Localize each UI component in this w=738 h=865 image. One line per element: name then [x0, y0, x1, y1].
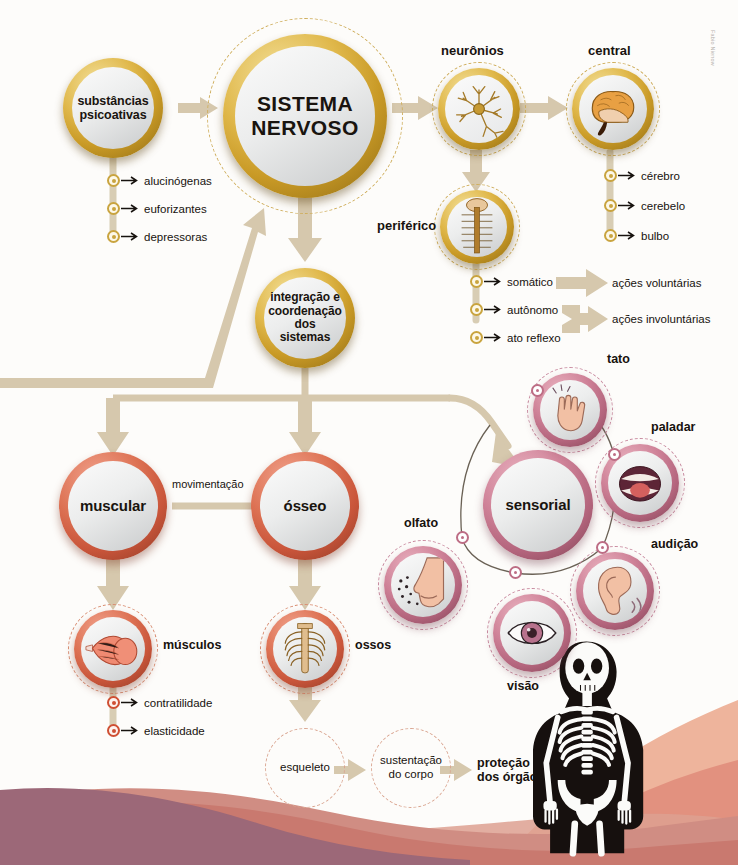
bullet-alucinogenas[interactable]: alucinógenas [107, 174, 212, 187]
node-tato-icon[interactable] [533, 373, 607, 447]
bullet-somatico[interactable]: somático [470, 275, 553, 288]
bullet-label: depressoras [144, 231, 207, 243]
bullet-dot [107, 202, 120, 215]
bullet-dot [604, 169, 617, 182]
node-olfato-icon[interactable] [384, 546, 462, 624]
label-protecao-dos-orgaos: proteção dos órgãos [477, 756, 544, 784]
node-label: esqueleto [280, 761, 330, 775]
bullet-elasticidade[interactable]: elasticidade [107, 724, 205, 737]
bullet-label: contratilidade [144, 697, 212, 709]
node-label: sensorial [502, 497, 575, 514]
bullet-label: alucinógenas [144, 175, 212, 187]
sensorial-node-olfato[interactable] [456, 531, 469, 544]
bullet-bulbo[interactable]: bulbo [604, 229, 669, 242]
bullet-cerebro[interactable]: cérebro [604, 169, 680, 182]
bullet-dot [604, 199, 617, 212]
label-musculos: músculos [163, 638, 221, 652]
arrow-icon [618, 200, 638, 211]
bullet-label: cerebelo [641, 200, 685, 212]
label-paladar: paladar [651, 420, 695, 434]
ear-icon [583, 559, 647, 623]
node-sustentacao-do-corpo[interactable]: sustentação do corpo [371, 728, 451, 808]
mouth-tongue-icon [608, 451, 672, 515]
node-label: sustentação do corpo [380, 754, 442, 781]
label-central: central [588, 44, 631, 59]
bullet-dot [470, 275, 483, 288]
eye-icon [500, 601, 564, 665]
bullet-dot [604, 229, 617, 242]
hand-touch-icon [540, 380, 600, 440]
arrow-icon [121, 697, 141, 708]
bullet-dot [107, 724, 120, 737]
arrow-icon [121, 203, 141, 214]
label-acoes-involuntarias: ações involuntárias [612, 313, 710, 327]
label-visao: visão [507, 679, 539, 693]
label-neuronios: neurônios [441, 44, 504, 59]
arrow-icon [121, 175, 141, 186]
node-sistema-nervoso[interactable]: SISTEMA NERVOSO [223, 34, 387, 198]
bullet-dot [107, 230, 120, 243]
arrow-icon [618, 230, 638, 241]
infographic-canvas: .c { fill:#d6c8ad; } .st { stroke:#d6c8a… [0, 0, 738, 865]
node-sensorial[interactable]: sensorial [483, 450, 593, 560]
bullet-dot [470, 331, 483, 344]
node-label: substâncias psicoativas [72, 94, 154, 122]
arrow-icon [484, 276, 504, 287]
bullet-cerebelo[interactable]: cerebelo [604, 199, 685, 212]
arrow-icon [121, 231, 141, 242]
label-tato: tato [607, 352, 630, 366]
bullet-dot [470, 303, 483, 316]
node-periferico-icon[interactable] [440, 190, 514, 264]
muscle-icon [81, 617, 145, 681]
label-olfato: olfato [404, 516, 438, 530]
node-musculos-icon[interactable] [74, 610, 152, 688]
neuron-icon [445, 75, 513, 143]
node-central-icon[interactable] [572, 68, 654, 150]
node-audicao-icon[interactable] [576, 552, 654, 630]
sensorial-node-tato[interactable] [531, 384, 544, 397]
node-osseo[interactable]: ósseo [251, 452, 359, 560]
bullet-label: autônomo [507, 304, 558, 316]
arrow-icon [121, 725, 141, 736]
label-periferico: periférico [377, 219, 436, 234]
nose-icon [391, 553, 455, 617]
node-label: muscular [76, 498, 150, 515]
bullet-ato-reflexo[interactable]: ato reflexo [470, 331, 561, 344]
node-label: integração e coordenação dos sistemas [264, 291, 346, 345]
arrow-icon [484, 332, 504, 343]
photo-credit: Fabio Nienow [710, 30, 716, 66]
bullet-contratilidade[interactable]: contratilidade [107, 696, 212, 709]
bullet-dot [107, 174, 120, 187]
bullet-label: somático [507, 276, 553, 288]
sensorial-node-visao[interactable] [509, 566, 522, 579]
brain-icon [579, 75, 647, 143]
bullet-label: cérebro [641, 170, 680, 182]
sensorial-node-audicao[interactable] [596, 541, 609, 554]
node-esqueleto[interactable]: esqueleto [265, 728, 345, 808]
node-label: SISTEMA NERVOSO [235, 92, 375, 139]
bullet-label: ato reflexo [507, 332, 561, 344]
arrow-icon [484, 304, 504, 315]
node-label: ósseo [280, 498, 331, 515]
label-movimentacao: movimentação [172, 478, 244, 491]
label-acoes-voluntarias: ações voluntárias [612, 277, 702, 291]
label-audicao: audição [651, 537, 698, 551]
bullet-depressoras[interactable]: depressoras [107, 230, 207, 243]
node-neuronios-icon[interactable] [438, 68, 520, 150]
bullet-euforizantes[interactable]: euforizantes [107, 202, 207, 215]
bullet-label: euforizantes [144, 203, 207, 215]
bullet-autonomo[interactable]: autônomo [470, 303, 558, 316]
bullet-dot [107, 696, 120, 709]
sensorial-node-paladar[interactable] [608, 448, 621, 461]
node-substancias-psicoativas[interactable]: substâncias psicoativas [63, 58, 163, 158]
bullet-label: elasticidade [144, 725, 205, 737]
ribcage-icon [273, 617, 337, 681]
node-ossos-icon[interactable] [266, 610, 344, 688]
spinal-cord-icon [447, 197, 507, 257]
bullet-label: bulbo [641, 230, 669, 242]
label-ossos: ossos [355, 638, 391, 652]
arrow-icon [618, 170, 638, 181]
node-integracao[interactable]: integração e coordenação dos sistemas [255, 268, 355, 368]
node-muscular[interactable]: muscular [59, 452, 167, 560]
node-visao-icon[interactable] [493, 594, 571, 672]
